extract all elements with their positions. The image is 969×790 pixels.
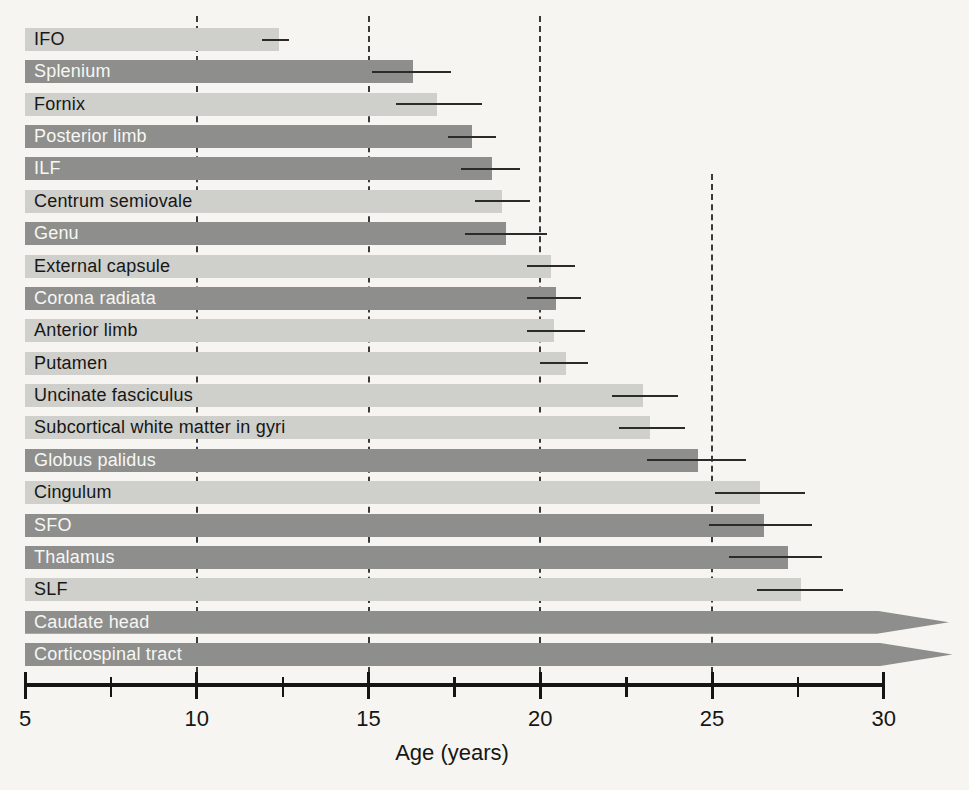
bar-label: Corona radiata [25, 287, 156, 310]
bar-sfo: SFO [25, 514, 764, 537]
bar-cingulum: Cingulum [25, 481, 760, 504]
x-axis-minor-tick [453, 677, 456, 697]
white-matter-maturation-chart: IFOSpleniumFornixPosterior limbILFCentru… [0, 0, 969, 790]
error-bar [372, 71, 451, 73]
bar-label: Globus palidus [25, 449, 156, 472]
bar-external-capsule: External capsule [25, 255, 551, 278]
bar-label: SLF [25, 578, 68, 601]
x-tick-label: 5 [19, 706, 31, 732]
error-bar [448, 136, 496, 138]
error-bar [619, 427, 684, 429]
error-bar [527, 330, 585, 332]
bar-label: Caudate head [25, 611, 150, 634]
bar-label: Uncinate fasciculus [25, 384, 193, 407]
x-tick-label: 30 [872, 706, 896, 732]
bar-ifo: IFO [25, 28, 279, 51]
error-bar [729, 556, 822, 558]
x-axis-major-tick [539, 672, 542, 699]
bar-thalamus: Thalamus [25, 546, 788, 569]
bar-label: SFO [25, 514, 72, 537]
x-tick-label: 10 [185, 706, 209, 732]
x-axis-minor-tick [110, 677, 113, 697]
x-tick-label: 15 [356, 706, 380, 732]
error-bar [647, 459, 747, 461]
x-axis-major-tick [711, 672, 714, 699]
bar-label: Posterior limb [25, 125, 147, 148]
bar-label: Fornix [25, 93, 85, 116]
x-axis-minor-tick [797, 677, 800, 697]
bar-genu: Genu [25, 222, 506, 245]
x-axis-minor-tick [282, 677, 285, 697]
bar-anterior-limb: Anterior limb [25, 319, 554, 342]
bar-label: Anterior limb [25, 319, 138, 342]
x-axis-minor-tick [625, 677, 628, 697]
error-bar [527, 297, 582, 299]
error-bar [527, 265, 575, 267]
x-tick-label: 20 [528, 706, 552, 732]
x-axis-major-tick [195, 672, 198, 699]
x-axis-title: Age (years) [395, 740, 509, 766]
bar-label: Genu [25, 222, 79, 245]
dashed-gridline-age-25 [711, 174, 713, 683]
bar-splenium: Splenium [25, 60, 413, 83]
bar-slf: SLF [25, 578, 801, 601]
error-bar [709, 524, 812, 526]
error-bar [396, 103, 482, 105]
error-bar [612, 395, 677, 397]
bar-label: Subcortical white matter in gyri [25, 416, 286, 439]
bar-label: Corticospinal tract [25, 643, 182, 666]
x-axis-major-tick [882, 672, 885, 699]
bar-putamen: Putamen [25, 352, 566, 375]
bar-label: Splenium [25, 60, 111, 83]
bar-caudate-head: Caudate head [25, 611, 949, 634]
bar-uncinate-fasciculus: Uncinate fasciculus [25, 384, 643, 407]
bar-label: Cingulum [25, 481, 112, 504]
bar-fornix: Fornix [25, 93, 437, 116]
x-axis-major-tick [367, 672, 370, 699]
bar-label: Putamen [25, 352, 107, 375]
bar-subcortical-white-matter-in-gyri: Subcortical white matter in gyri [25, 416, 650, 439]
error-bar [757, 589, 843, 591]
bar-posterior-limb: Posterior limb [25, 125, 472, 148]
error-bar [540, 362, 588, 364]
error-bar [465, 233, 547, 235]
bar-globus-palidus: Globus palidus [25, 449, 698, 472]
error-bar [475, 200, 530, 202]
error-bar [715, 492, 804, 494]
bar-ilf: ILF [25, 157, 492, 180]
x-tick-label: 25 [700, 706, 724, 732]
bar-label: IFO [25, 28, 65, 51]
bar-corona-radiata: Corona radiata [25, 287, 556, 310]
error-bar [461, 168, 519, 170]
bar-label: ILF [25, 157, 61, 180]
bar-centrum-semiovale: Centrum semiovale [25, 190, 502, 213]
bar-label: External capsule [25, 255, 170, 278]
x-axis-major-tick [24, 672, 27, 699]
bar-corticospinal-tract: Corticospinal tract [25, 643, 952, 666]
bar-label: Thalamus [25, 546, 115, 569]
bar-label: Centrum semiovale [25, 190, 192, 213]
error-bar [262, 39, 289, 41]
